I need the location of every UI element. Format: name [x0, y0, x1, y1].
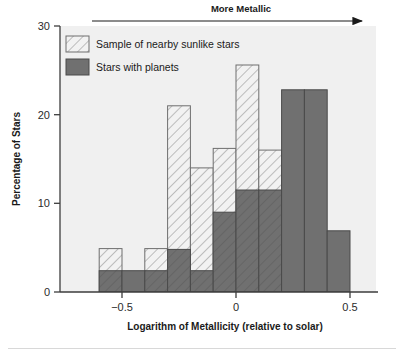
- bar-solid: [213, 212, 236, 292]
- y-tick-label: 10: [38, 197, 50, 209]
- x-tick-label: 0: [233, 301, 239, 313]
- bar-solid: [168, 249, 191, 292]
- bar-solid: [304, 90, 327, 292]
- y-tick-label: 0: [44, 286, 50, 298]
- bar-solid: [236, 190, 259, 292]
- x-tick-label: −0.5: [111, 301, 133, 313]
- legend-label-stars-with-planets: Stars with planets: [96, 61, 179, 73]
- y-tick-label: 30: [38, 20, 50, 32]
- chart-figure: More Metallic: [0, 0, 404, 357]
- x-tick-label: 0.5: [342, 301, 357, 313]
- bottom-divider: [8, 348, 396, 349]
- bar-solid: [259, 190, 282, 292]
- legend: Sample of nearby sunlike stars Stars wit…: [66, 36, 240, 75]
- annotation-label: More Metallic: [211, 3, 271, 14]
- legend-swatch-solid: [66, 59, 89, 75]
- y-tick-label: 20: [38, 109, 50, 121]
- y-axis-label: Percentage of Stars: [11, 112, 22, 206]
- bar-solid: [122, 271, 145, 292]
- legend-label-nearby-sunlike-stars: Sample of nearby sunlike stars: [96, 38, 240, 50]
- bar-solid: [282, 90, 305, 292]
- bar-solid: [145, 271, 168, 292]
- bar-solid: [99, 271, 122, 292]
- more-metallic-annotation: More Metallic: [92, 3, 362, 21]
- histogram-chart: More Metallic: [0, 0, 404, 357]
- bar-solid: [327, 231, 350, 292]
- x-axis-label: Logarithm of Metallicity (relative to so…: [127, 321, 323, 332]
- bar-solid: [190, 271, 213, 292]
- legend-swatch-hatched: [66, 36, 89, 52]
